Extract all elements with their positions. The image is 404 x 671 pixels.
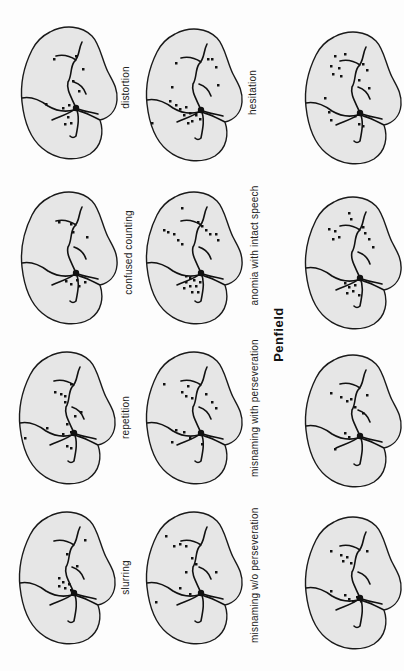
panel-label-hesitation: hesitation bbox=[247, 58, 258, 128]
brain-map-hesitation bbox=[145, 22, 245, 162]
brain-diagram-icon bbox=[145, 345, 245, 485]
brain-map-unlabeled-3 bbox=[304, 348, 404, 488]
brain-diagram-icon bbox=[20, 20, 120, 160]
figure-caption: Penfield bbox=[271, 300, 286, 370]
brain-diagram-icon bbox=[145, 505, 245, 645]
brain-map-unlabeled-4 bbox=[304, 510, 404, 650]
brain-diagram-icon bbox=[304, 190, 404, 330]
brain-map-repetition bbox=[18, 345, 118, 485]
brain-diagram-icon bbox=[18, 345, 118, 485]
brain-map-confused-counting bbox=[20, 185, 120, 325]
brain-diagram-icon bbox=[145, 22, 245, 162]
brain-map-unlabeled-2 bbox=[304, 190, 404, 330]
brain-diagram-icon bbox=[304, 348, 404, 488]
panel-label-slurring: slurring bbox=[120, 543, 131, 613]
brain-map-anomia-intact-speech bbox=[145, 185, 245, 325]
brain-map-distortion bbox=[20, 20, 120, 160]
brain-diagram-icon bbox=[304, 25, 404, 165]
panel-label-anomia-intact-speech: anomia with intact speech bbox=[249, 183, 260, 308]
brain-diagram-icon bbox=[20, 185, 120, 325]
panel-label-misnaming-without-perseveration: misnaming w/o perseveration bbox=[249, 508, 260, 643]
panel-label-misnaming-with-perseveration: misnaming with perseveration bbox=[249, 342, 260, 477]
panel-label-confused-counting: confused counting bbox=[123, 203, 134, 303]
brain-map-slurring bbox=[18, 505, 118, 645]
panel-label-distortion: distortion bbox=[120, 43, 131, 133]
brain-map-unlabeled-1 bbox=[304, 25, 404, 165]
brain-diagram-icon bbox=[304, 510, 404, 650]
brain-diagram-icon bbox=[18, 505, 118, 645]
brain-map-misnaming-with-perseveration bbox=[145, 345, 245, 485]
brain-map-misnaming-without-perseveration bbox=[145, 505, 245, 645]
panel-label-repetition: repetition bbox=[120, 378, 131, 458]
brain-diagram-icon bbox=[145, 185, 245, 325]
